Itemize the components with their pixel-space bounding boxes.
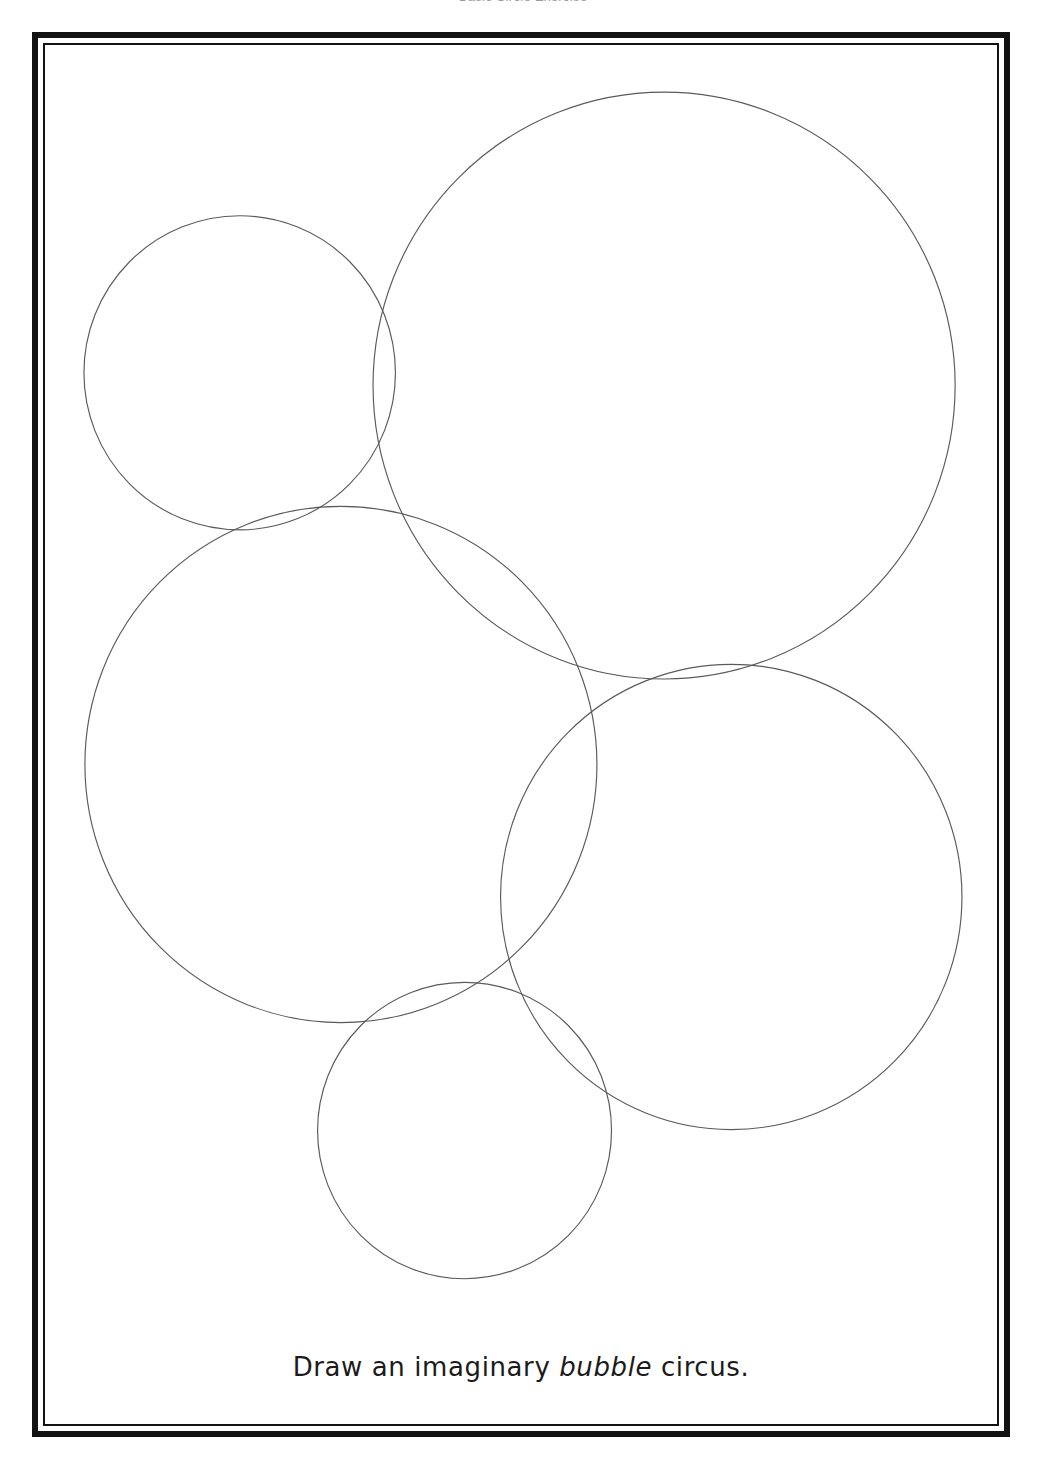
bubble-top-left-small xyxy=(84,216,395,530)
bubble-top-right-large xyxy=(373,92,955,679)
running-header: Basic Circle Exercise xyxy=(0,0,1046,5)
caption-suffix: circus. xyxy=(652,1352,749,1382)
bubble-circles-svg xyxy=(45,45,997,1424)
bubble-drawing-canvas[interactable] xyxy=(45,45,997,1424)
caption-prefix: Draw an xyxy=(293,1352,415,1382)
caption-lead: imaginary xyxy=(414,1352,559,1382)
bubble-right-middle-large xyxy=(501,664,962,1129)
bubble-bottom-center-small xyxy=(318,982,612,1278)
bubble-left-middle-large xyxy=(85,506,597,1022)
caption-emphasis-word: bubble xyxy=(559,1352,652,1382)
worksheet-page: Basic Circle Exercise Draw an imaginary … xyxy=(0,0,1046,1471)
worksheet-frame-inner: Draw an imaginary bubble circus. xyxy=(43,43,999,1426)
worksheet-caption: Draw an imaginary bubble circus. xyxy=(45,1352,997,1382)
worksheet-frame-outer: Draw an imaginary bubble circus. xyxy=(32,32,1010,1437)
